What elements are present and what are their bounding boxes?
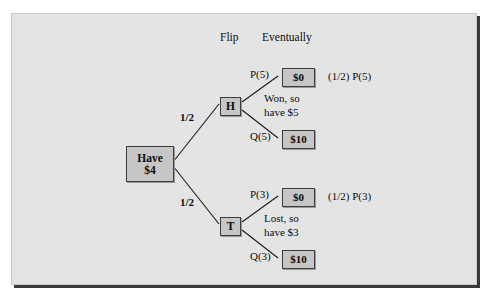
- node-root-line2: $4: [144, 164, 156, 176]
- caption-tails-line2: have $3: [264, 226, 299, 240]
- edge-label-tails-q3: Q(3): [250, 250, 271, 263]
- caption-tails: Lost, so have $3: [264, 212, 299, 240]
- edge-label-heads-p5: P(5): [250, 68, 269, 81]
- node-outcome-tails-zero-value: $0: [293, 192, 304, 204]
- tree-diagram-panel: Flip Eventually Have $4 1/2 H P(5) $0 (1…: [11, 13, 477, 285]
- edge-label-tails-probability: 1/2: [180, 196, 194, 209]
- node-root-have-4[interactable]: Have $4: [126, 146, 174, 182]
- node-outcome-heads-zero[interactable]: $0: [282, 68, 315, 87]
- caption-heads-line1: Won, so: [264, 92, 300, 106]
- caption-heads-line2: have $5: [264, 106, 300, 120]
- annotation-tails-p3: (1/2) P(3): [328, 190, 371, 203]
- node-flip-tails[interactable]: T: [220, 217, 241, 236]
- edge-label-tails-p3: P(3): [250, 188, 269, 201]
- node-outcome-tails-ten[interactable]: $10: [282, 250, 315, 269]
- edge-root-to-tails: [173, 166, 219, 224]
- node-outcome-tails-zero[interactable]: $0: [282, 188, 315, 207]
- caption-tails-line1: Lost, so: [264, 212, 299, 226]
- annotation-heads-p5: (1/2) P(5): [328, 70, 371, 83]
- edge-label-heads-q5: Q(5): [250, 130, 271, 143]
- node-flip-tails-label: T: [227, 220, 235, 232]
- node-flip-heads[interactable]: H: [220, 97, 241, 116]
- figure-screenshot: Flip Eventually Have $4 1/2 H P(5) $0 (1…: [0, 0, 490, 302]
- edge-label-heads-probability: 1/2: [180, 111, 194, 124]
- column-header-eventually: Eventually: [262, 31, 312, 43]
- column-header-flip: Flip: [220, 31, 239, 43]
- caption-heads: Won, so have $5: [264, 92, 300, 120]
- node-outcome-heads-ten[interactable]: $10: [282, 130, 315, 149]
- tree-edges: [12, 14, 477, 285]
- node-root-line1: Have: [137, 152, 163, 164]
- node-flip-heads-label: H: [226, 100, 235, 112]
- node-outcome-tails-ten-value: $10: [290, 254, 307, 266]
- node-outcome-heads-ten-value: $10: [290, 134, 307, 146]
- node-outcome-heads-zero-value: $0: [293, 72, 304, 84]
